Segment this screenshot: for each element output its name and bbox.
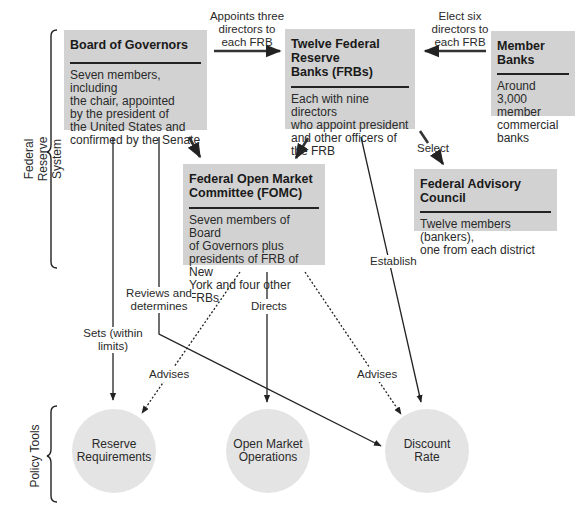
appoints-label: Appoints three directors to each FRB: [207, 10, 287, 49]
federal-advisory-council-title: Federal Advisory Council: [420, 177, 551, 205]
divider: [291, 86, 409, 88]
reviews-label: Reviews and determines: [126, 287, 192, 313]
federal-reserve-banks-description: Each with nine directors who appoint pre…: [291, 93, 409, 158]
federal-reserve-banks-title: Twelve Federal Reserve Banks (FRBs): [291, 37, 409, 79]
elect-label: Elect six directors to each FRB: [425, 10, 495, 49]
divider: [420, 211, 551, 213]
board-of-governors-box: Board of Governors Seven members, includ…: [64, 30, 207, 130]
discount-rate-circle: Discount Rate: [385, 409, 469, 493]
edge-advises-right: [305, 272, 401, 414]
directs-label: Directs: [250, 299, 288, 314]
board-of-governors-description: Seven members, including the chair, appo…: [70, 69, 201, 147]
member-banks-description: Around 3,000 member commercial banks: [497, 80, 569, 145]
establish-label: Establish: [369, 255, 418, 268]
policy-tools-bracket: [47, 406, 57, 502]
policy-tools-label: Policy Tools: [28, 416, 42, 496]
edge-establish: [361, 137, 421, 402]
fomc-description: Seven members of Board of Governors plus…: [189, 214, 319, 305]
fomc-box: Federal Open Market Committee (FOMC) Sev…: [183, 164, 325, 265]
sets-label: Sets (within limits): [82, 327, 144, 353]
board-of-governors-title: Board of Governors: [70, 38, 201, 52]
federal-advisory-council-description: Twelve members (bankers), one from each …: [420, 218, 551, 257]
federal-reserve-banks-box: Twelve Federal Reserve Banks (FRBs) Each…: [285, 29, 415, 129]
fomc-title: Federal Open Market Committee (FOMC): [189, 172, 319, 200]
divider: [189, 207, 319, 209]
advises-right-label: Advises: [356, 367, 398, 382]
divider: [497, 73, 569, 75]
select-label: Select: [417, 142, 449, 155]
member-banks-box: Member Banks Around 3,000 member commerc…: [491, 31, 575, 116]
federal-reserve-system-label: Federal Reserve System: [22, 114, 64, 204]
edge-select-b: [437, 155, 443, 164]
divider: [70, 62, 201, 64]
member-banks-title: Member Banks: [497, 39, 569, 67]
advises-left-label: Advises: [148, 367, 190, 382]
federal-advisory-council-box: Federal Advisory Council Twelve members …: [414, 169, 557, 231]
reserve-requirements-circle: Reserve Requirements: [72, 409, 156, 493]
open-market-operations-circle: Open Market Operations: [226, 409, 310, 493]
